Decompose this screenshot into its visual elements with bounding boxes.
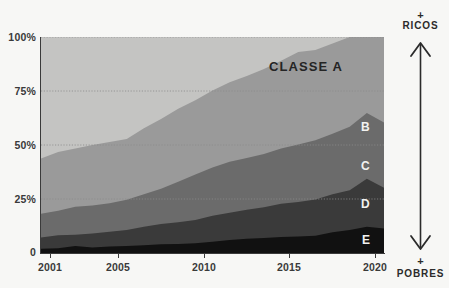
plot-area: CLASSE A B C D E [41, 37, 384, 253]
x-tick-mark-2010 [204, 253, 205, 258]
poor-plus-sign: + [392, 256, 449, 267]
x-tick-mark-2015 [289, 253, 290, 258]
x-axis-line [40, 253, 385, 254]
poor-label: POBRES [392, 268, 449, 279]
double-headed-vertical-arrow-icon [392, 0, 449, 288]
x-tick-label-2020: 2020 [363, 261, 387, 273]
y-tick-label-25: 25% [14, 194, 36, 205]
y-tick-label-75: 75% [14, 86, 36, 97]
y-tick-label-0: 0 [30, 247, 36, 258]
chart-canvas: 100% 75% 50% 25% 0 CLASSE A B C D E 2001… [0, 0, 449, 288]
x-tick-label-2015: 2015 [277, 261, 301, 273]
x-tick-mark-2005 [118, 253, 119, 258]
y-tick-label-100: 100% [8, 32, 36, 43]
x-tick-label-2010: 2010 [192, 261, 216, 273]
x-tick-mark-2020 [375, 253, 376, 258]
x-tick-label-2001: 2001 [38, 261, 62, 273]
y-tick-label-50: 50% [14, 140, 36, 151]
wealth-axis-annotation: + RICOS + POBRES [392, 0, 449, 288]
series-label-a: CLASSE A [269, 59, 343, 74]
y-axis-tick-labels: 100% 75% 50% 25% 0 [0, 0, 36, 288]
x-tick-mark-2001 [50, 253, 51, 258]
x-tick-label-2005: 2005 [106, 261, 130, 273]
